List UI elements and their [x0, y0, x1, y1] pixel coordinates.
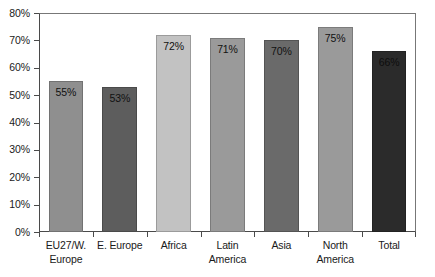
bar-africa[interactable]: [156, 35, 191, 232]
bar-value-label: 66%: [372, 57, 407, 68]
y-axis-tick-label: 30%: [0, 144, 30, 154]
bar-value-label: 75%: [318, 33, 353, 44]
x-axis-tick-mark: [415, 232, 416, 237]
y-axis-tick-label: 20%: [0, 172, 30, 182]
x-axis-tick-mark: [147, 232, 148, 237]
x-axis-tick-mark: [39, 232, 40, 237]
bar-north-america[interactable]: [318, 27, 353, 232]
bar-group: 75%: [318, 13, 353, 232]
bar-value-label: 53%: [102, 93, 137, 104]
bar-chart: 80%70%60%50%40%30%20%10%0% 55%53%72%71%7…: [0, 0, 435, 277]
y-axis-tick-label: 0%: [0, 227, 30, 237]
bar-value-label: 70%: [264, 46, 299, 57]
x-axis-category-line: Europe: [33, 252, 99, 266]
x-axis-category-line: America: [195, 252, 261, 266]
y-axis-tick-label: 10%: [0, 199, 30, 209]
bar-total[interactable]: [372, 51, 407, 232]
bar-value-label: 71%: [210, 44, 245, 55]
x-axis: EU27/W.EuropeE. EuropeAfricaLatinAmerica…: [39, 238, 416, 277]
x-axis-tick-mark: [308, 232, 309, 237]
bar-asia[interactable]: [264, 40, 299, 232]
bar-e-europe[interactable]: [102, 87, 137, 232]
bar-group: 66%: [372, 13, 407, 232]
bar-group: 70%: [264, 13, 299, 232]
bar-value-label: 55%: [49, 87, 84, 98]
x-axis-tick-mark: [362, 232, 363, 237]
x-axis-tick-mark: [254, 232, 255, 237]
x-axis-category-line: Total: [356, 238, 422, 252]
bar-group: 55%: [49, 13, 84, 232]
bar-eu27-w-europe[interactable]: [49, 81, 84, 232]
y-axis-tick-label: 70%: [0, 35, 30, 45]
x-axis-ticks: [39, 232, 416, 237]
bar-value-label: 72%: [156, 41, 191, 52]
x-axis-category-label: Total: [356, 238, 422, 252]
x-axis-tick-mark: [201, 232, 202, 237]
bar-group: 72%: [156, 13, 191, 232]
x-axis-tick-mark: [93, 232, 94, 237]
y-axis-tick-label: 80%: [0, 8, 30, 18]
bars-layer: 55%53%72%71%70%75%66%: [39, 13, 416, 232]
bar-group: 53%: [102, 13, 137, 232]
x-axis-category-line: America: [302, 252, 368, 266]
bar-group: 71%: [210, 13, 245, 232]
y-axis-tick-label: 50%: [0, 90, 30, 100]
y-axis: 80%70%60%50%40%30%20%10%0%: [0, 0, 39, 277]
y-axis-tick-label: 60%: [0, 62, 30, 72]
bar-latin-america[interactable]: [210, 38, 245, 232]
y-axis-tick-label: 40%: [0, 117, 30, 127]
